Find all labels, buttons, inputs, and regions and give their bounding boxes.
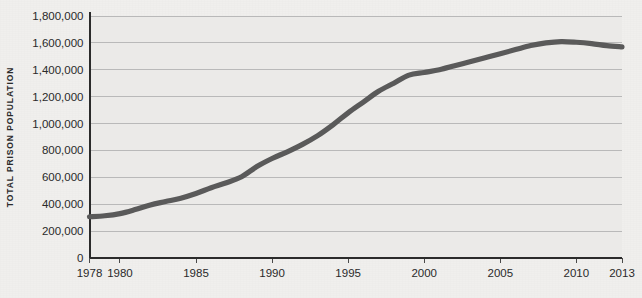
y-axis-tick-labels: 0200,000400,000600,000800,0001,000,0001,… (32, 10, 83, 264)
plot-area-rect (90, 16, 623, 258)
x-tick-label: 1995 (335, 267, 361, 279)
x-tick-label: 2000 (411, 267, 437, 279)
chart-page: 0200,000400,000600,000800,0001,000,0001,… (0, 0, 642, 298)
y-tick-label: 400,000 (42, 198, 84, 210)
x-tick-label: 2005 (487, 267, 513, 279)
y-axis-title-text: TOTAL PRISON POPULATION (5, 67, 15, 208)
x-tick-label: 2010 (564, 267, 590, 279)
y-tick-label: 1,400,000 (32, 64, 83, 76)
y-axis-title: TOTAL PRISON POPULATION (5, 67, 15, 208)
x-tick-label: 2013 (609, 267, 635, 279)
plot-background (90, 16, 623, 258)
y-tick-label: 1,800,000 (32, 10, 83, 22)
y-tick-label: 200,000 (42, 225, 84, 237)
x-tick-label: 1990 (259, 267, 285, 279)
prison-population-line-chart: 0200,000400,000600,000800,0001,000,0001,… (0, 0, 642, 298)
x-tick-label: 1985 (183, 267, 209, 279)
x-axis-tick-labels: 197819801985199019952000200520102013 (77, 267, 635, 279)
y-tick-label: 800,000 (42, 144, 84, 156)
y-tick-label: 1,200,000 (32, 91, 83, 103)
x-tick-label: 1980 (107, 267, 133, 279)
y-tick-label: 0 (77, 252, 83, 264)
y-tick-label: 1,600,000 (32, 37, 83, 49)
y-tick-label: 1,000,000 (32, 118, 83, 130)
x-tick-label: 1978 (77, 267, 103, 279)
y-tick-label: 600,000 (42, 171, 84, 183)
